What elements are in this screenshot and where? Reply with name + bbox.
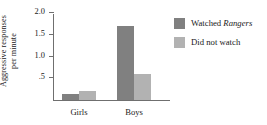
y-axis-tick-label: 2.0 [35,6,45,17]
x-axis-label-boys: Boys [104,107,164,118]
y-axis-tick-label: 1.0 [35,50,45,61]
plot-area: 2.01.51.0.5 GirlsBoys [53,14,170,101]
bar-girls-series1 [79,91,96,100]
legend-item-did-not-watch: Did not watch [174,36,266,48]
y-axis-tick: 1.5 [49,34,54,35]
legend-swatch-icon-light [174,37,185,48]
legend-label-prefix-1: Did not watch [191,37,240,47]
y-axis-tick-label: .5 [39,71,45,82]
y-axis-line [53,14,54,101]
legend-swatch-icon-dark [174,18,185,29]
legend-label-emph-0: Rangers [223,18,252,28]
bar-boys-series0 [117,26,134,100]
y-axis-title: Aggressive responses per minute [0,1,25,101]
bar-chart-figure: Aggressive responses per minute 2.01.51.… [0,0,267,125]
y-axis-title-line1: Aggressive responses [0,1,9,101]
legend-label-did-not-watch: Did not watch [191,36,240,48]
y-axis-tick: 2.0 [49,12,54,13]
y-axis-tick: 1.0 [49,56,54,57]
y-axis-title-line2: per minute [9,1,19,101]
bar-girls-series0 [62,94,79,100]
legend-label-watched-rangers: Watched Rangers [191,17,252,29]
y-axis-tick: .5 [49,77,54,78]
chart-legend: Watched Rangers Did not watch [174,17,266,55]
legend-label-prefix-0: Watched [191,18,223,28]
legend-item-watched-rangers: Watched Rangers [174,17,266,29]
x-axis-label-girls: Girls [49,107,109,118]
y-axis-tick-label: 1.5 [35,28,45,39]
x-axis-line [53,100,170,101]
bar-boys-series1 [134,74,151,100]
